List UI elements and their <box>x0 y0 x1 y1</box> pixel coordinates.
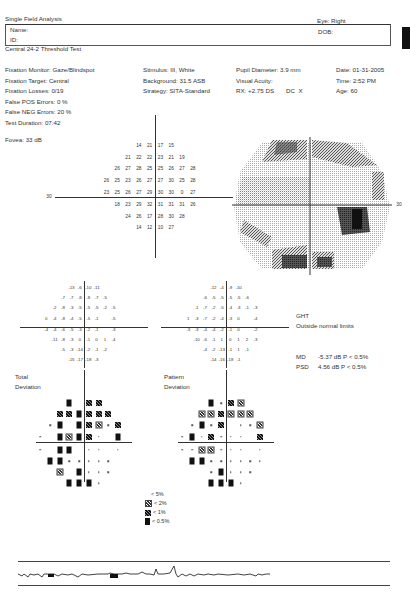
legend-p2: < 2% <box>145 500 167 507</box>
legend-p1: < 1% <box>145 509 166 516</box>
normal-dot-icon <box>250 471 252 473</box>
prob-2-icon <box>198 411 205 418</box>
pattern-deviation-probability-map <box>0 0 410 602</box>
prob-1-icon <box>257 434 263 440</box>
normal-dot-icon <box>230 460 232 462</box>
normal-dot-icon <box>240 425 242 427</box>
prob-2-icon <box>198 446 205 453</box>
normal-dot-icon <box>240 460 242 462</box>
legend-p5: < 5% <box>145 491 164 498</box>
gaze-tracker-strip <box>18 561 390 586</box>
normal-dot-icon <box>240 483 242 485</box>
normal-dot-icon <box>259 460 261 462</box>
prob-2-icon <box>208 446 215 453</box>
normal-dot-icon <box>182 449 184 451</box>
prob-2-icon <box>247 411 254 418</box>
normal-dot-icon <box>240 449 242 451</box>
gaze-trace <box>18 562 390 585</box>
prob-1-icon <box>218 411 224 417</box>
prob-1-icon <box>145 510 151 516</box>
prob-5-icon <box>229 423 233 427</box>
prob-05-icon <box>190 458 195 465</box>
normal-dot-icon <box>230 471 232 473</box>
prob-05-icon <box>209 480 214 487</box>
prob-05-icon <box>219 480 224 487</box>
prob-1-icon <box>208 434 214 440</box>
pdp-h-axis <box>178 442 274 443</box>
normal-dot-icon <box>240 471 242 473</box>
prob-05-icon <box>219 469 224 476</box>
normal-dot-icon <box>220 460 222 462</box>
prob-05-icon <box>209 400 214 407</box>
prob-05-icon <box>145 518 150 525</box>
normal-dot-icon <box>220 402 222 404</box>
normal-dot-icon <box>240 436 242 438</box>
normal-dot-icon <box>211 425 213 427</box>
prob-2-icon <box>145 500 152 507</box>
normal-dot-icon <box>250 460 252 462</box>
normal-dot-icon <box>250 425 252 427</box>
prob-05-icon <box>228 480 233 487</box>
prob-1-icon <box>218 422 224 428</box>
normal-dot-icon <box>201 436 203 438</box>
prob-2-icon <box>227 411 234 418</box>
normal-dot-icon <box>191 449 193 451</box>
normal-dot-icon <box>191 425 193 427</box>
normal-dot-icon <box>211 460 213 462</box>
normal-dot-icon <box>220 436 222 438</box>
prob-5-icon <box>200 470 204 474</box>
prob-2-icon <box>208 411 215 418</box>
prob-2-icon <box>237 411 244 418</box>
prob-5-icon <box>145 493 149 497</box>
prob-2-icon <box>237 400 244 407</box>
prob-05-icon <box>199 458 204 465</box>
pdp-v-axis <box>226 370 227 482</box>
legend-p05: < 0.5% <box>145 518 169 525</box>
normal-dot-icon <box>230 436 232 438</box>
normal-dot-icon <box>211 471 213 473</box>
normal-dot-icon <box>182 436 184 438</box>
prob-05-icon <box>190 433 195 440</box>
prob-2-icon <box>256 422 263 429</box>
prob-05-icon <box>199 422 204 429</box>
normal-dot-icon <box>230 449 232 451</box>
normal-dot-icon <box>259 449 261 451</box>
normal-dot-icon <box>220 449 222 451</box>
prob-1-icon <box>228 400 234 406</box>
